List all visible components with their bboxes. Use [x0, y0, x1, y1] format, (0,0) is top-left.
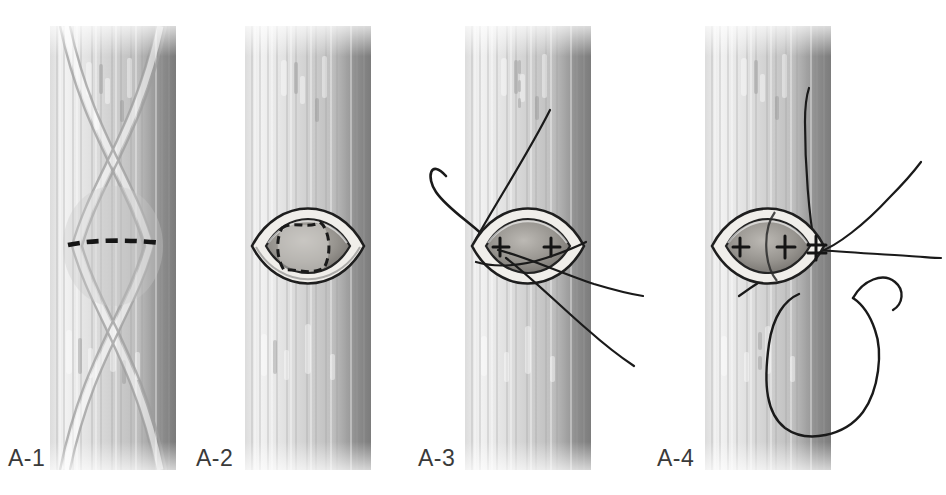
panel-a1: A-1 — [0, 0, 196, 495]
panel-a3: A-3 — [418, 0, 657, 495]
panel-label-a2: A-2 — [196, 445, 233, 472]
panel-a4: A-4 — [657, 0, 946, 495]
panel-a4-illustration — [657, 0, 946, 495]
panel-a1-illustration — [0, 0, 196, 495]
panel-label-a1: A-1 — [8, 445, 45, 472]
panel-a3-illustration — [418, 0, 657, 495]
panel-a2-illustration — [196, 0, 418, 495]
panel-label-a4: A-4 — [657, 445, 694, 472]
surgical-figure: A-1 — [0, 0, 946, 495]
panel-a2: A-2 — [196, 0, 418, 495]
panel-label-a3: A-3 — [418, 445, 455, 472]
